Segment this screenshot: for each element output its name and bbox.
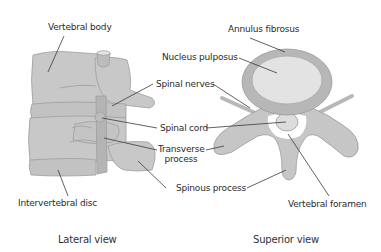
leader-spinous-right xyxy=(247,170,286,188)
label-nucleus-pulposus: Nucleus pulposus xyxy=(162,52,238,62)
label-annulus-fibrosus: Annulus fibrosus xyxy=(228,24,299,34)
lateral-view-illustration xyxy=(29,51,156,176)
label-intervertebral-disc: Intervertebral disc xyxy=(18,198,97,208)
label-transverse-line2: process xyxy=(158,154,204,164)
caption-superior-view: Superior view xyxy=(253,234,319,245)
label-spinal-cord: Spinal cord xyxy=(160,123,208,133)
caption-lateral-view: Lateral view xyxy=(58,234,117,245)
nucleus-pulposus-shape xyxy=(252,56,322,104)
spinal-cord-shape xyxy=(276,113,298,131)
label-spinal-nerves: Spinal nerves xyxy=(156,79,214,89)
label-spinous-process: Spinous process xyxy=(176,183,246,193)
lower-spinous-process xyxy=(108,142,155,172)
label-transverse-line1: Transverse xyxy=(158,144,204,154)
intervertebral-disc-lower xyxy=(29,159,96,177)
leader-annulus xyxy=(250,38,285,52)
label-transverse-process: Transverse process xyxy=(158,144,204,164)
superior-view-illustration xyxy=(214,49,358,180)
label-vertebral-body: Vertebral body xyxy=(48,22,112,32)
spinal-nerve-column xyxy=(96,96,107,174)
label-vertebral-foramen: Vertebral foramen xyxy=(288,199,367,209)
